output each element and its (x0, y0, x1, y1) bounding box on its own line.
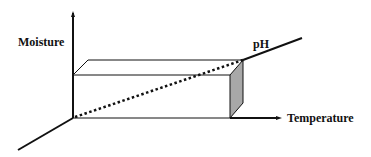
depth-axis-front (18, 118, 73, 150)
box-side-face (230, 60, 243, 118)
moisture-arrowhead (71, 11, 75, 17)
diagram-canvas: Moisture pH Temperature (0, 0, 371, 157)
temperature-arrowhead (276, 116, 282, 120)
ph-axis (243, 38, 302, 60)
ph-label: pH (253, 37, 270, 51)
box-top-left-edge (73, 60, 88, 75)
dotted-diagonal (75, 60, 243, 117)
temperature-label: Temperature (287, 111, 354, 125)
moisture-label: Moisture (18, 35, 65, 49)
